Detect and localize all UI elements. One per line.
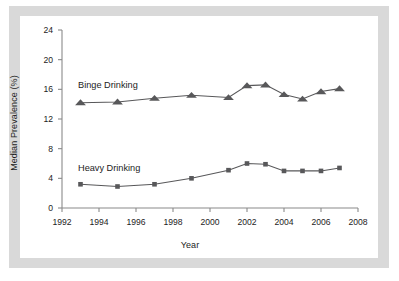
y-tick-label: 8 bbox=[31, 144, 53, 154]
axes-group bbox=[58, 30, 358, 212]
y-axis-title: Median Prevalence (%) bbox=[9, 63, 19, 183]
figure-frame: Median Prevalence (%) Year Binge Drinkin… bbox=[0, 0, 399, 281]
x-axis-title: Year bbox=[160, 240, 220, 250]
y-tick-label: 4 bbox=[31, 173, 53, 183]
data-point-marker bbox=[186, 92, 197, 98]
series-label-heavy-drinking: Heavy Drinking bbox=[78, 163, 140, 173]
x-tick-label: 2002 bbox=[230, 217, 264, 227]
data-point-marker bbox=[334, 85, 345, 91]
data-point-marker bbox=[263, 162, 268, 167]
x-tick-label: 2006 bbox=[304, 217, 338, 227]
x-tick-label: 1992 bbox=[45, 217, 79, 227]
data-point-marker bbox=[282, 169, 287, 174]
x-tick-label: 2004 bbox=[267, 217, 301, 227]
x-tick-label: 1998 bbox=[156, 217, 190, 227]
data-point-marker bbox=[337, 166, 342, 171]
y-tick-label: 24 bbox=[31, 25, 53, 35]
x-tick-label: 2008 bbox=[341, 217, 375, 227]
x-tick-label: 2000 bbox=[193, 217, 227, 227]
data-point-marker bbox=[319, 169, 324, 174]
series-label-binge-drinking: Binge Drinking bbox=[78, 80, 138, 90]
data-point-marker bbox=[152, 182, 157, 187]
x-tick-label: 1996 bbox=[119, 217, 153, 227]
data-point-marker bbox=[226, 168, 231, 173]
y-tick-label: 0 bbox=[31, 203, 53, 213]
data-point-marker bbox=[115, 184, 120, 189]
data-point-marker bbox=[245, 161, 250, 166]
y-tick-label: 12 bbox=[31, 114, 53, 124]
x-tick-label: 1994 bbox=[82, 217, 116, 227]
data-point-marker bbox=[300, 169, 305, 174]
data-point-marker bbox=[189, 176, 194, 181]
chart-plot bbox=[0, 0, 399, 281]
y-tick-label: 20 bbox=[31, 55, 53, 65]
data-point-marker bbox=[78, 182, 83, 187]
y-tick-label: 16 bbox=[31, 84, 53, 94]
